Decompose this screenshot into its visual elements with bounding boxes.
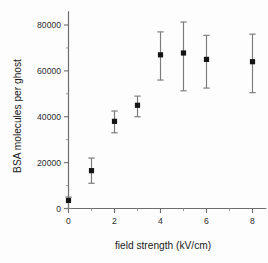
- x-tick-label: 8: [250, 216, 255, 226]
- data-point-marker: [135, 103, 140, 108]
- data-point-marker: [112, 119, 117, 124]
- x-axis-title: field strength (kV/cm): [115, 240, 211, 251]
- x-tick-label: 0: [66, 216, 71, 226]
- data-point-marker: [181, 50, 186, 55]
- scatter-plot-with-error-bars: 020000400006000080000 02468 field streng…: [0, 0, 268, 263]
- y-tick-label: 60000: [37, 66, 61, 76]
- y-tick-label: 80000: [37, 20, 61, 30]
- x-tick-label: 2: [112, 216, 117, 226]
- y-axis-title: BSA molecules per ghost: [12, 59, 23, 173]
- data-point-marker: [66, 198, 71, 203]
- data-point-marker: [250, 59, 255, 64]
- y-tick-label: 20000: [37, 158, 61, 168]
- y-tick-label: 40000: [37, 112, 61, 122]
- data-point-marker: [89, 168, 94, 173]
- data-point-marker: [158, 52, 163, 57]
- data-point-marker: [204, 57, 209, 62]
- chart-figure: 020000400006000080000 02468 field streng…: [0, 0, 268, 263]
- x-tick-label: 6: [204, 216, 209, 226]
- plot-background: [0, 0, 268, 263]
- x-tick-label: 4: [158, 216, 163, 226]
- y-tick-label: 0: [56, 204, 61, 214]
